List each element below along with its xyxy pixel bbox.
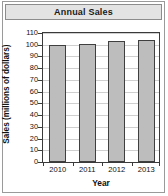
bar-series [43, 33, 159, 162]
y-axis-tick-label: 10 [16, 146, 38, 153]
y-axis-tick-label: 100 [16, 41, 38, 48]
chart-figure: Annual Sales Sales (millions of dollars)… [0, 0, 168, 196]
y-axis-tick-label: 30 [16, 123, 38, 130]
y-axis-tick-label: 50 [16, 99, 38, 106]
y-axis-tick-label: 20 [16, 135, 38, 142]
y-axis-tick-label: 70 [16, 76, 38, 83]
y-axis-tick-label: 110 [16, 29, 38, 36]
x-axis-tick [159, 162, 160, 166]
chart-title: Annual Sales [54, 8, 113, 17]
y-axis-tick-label-container: 100 [14, 41, 38, 49]
chart-title-band: Annual Sales [5, 4, 162, 20]
y-axis-tick-label-container: 70 [14, 76, 38, 84]
y-axis-title: Sales (millions of dollars) [4, 44, 12, 143]
bar [108, 41, 125, 162]
y-axis-tick-label: 40 [16, 111, 38, 118]
plot-area [42, 32, 160, 163]
y-axis-tick-label-container: 80 [14, 64, 38, 72]
bar [138, 40, 155, 162]
bar [79, 44, 96, 162]
x-axis-tick-label: 2012 [102, 166, 132, 174]
y-axis-tick-label-container: 20 [14, 135, 38, 143]
y-axis-tick-label-container: 110 [14, 29, 38, 37]
y-axis-tick-label-container: 30 [14, 123, 38, 131]
y-axis-tick-label-container: 40 [14, 111, 38, 119]
y-axis-tick-label-container: 0 [14, 158, 38, 166]
y-axis-tick-label: 0 [16, 158, 38, 165]
y-axis-tick-label: 80 [16, 64, 38, 71]
gridline [43, 162, 159, 163]
y-axis-tick-label: 60 [16, 88, 38, 95]
x-axis-tick-label: 2010 [43, 166, 73, 174]
bar [49, 45, 66, 162]
x-axis-tick-label: 2013 [132, 166, 162, 174]
y-axis-tick-label-container: 60 [14, 88, 38, 96]
x-axis-tick-label: 2011 [73, 166, 103, 174]
y-axis-tick-label-container: 50 [14, 99, 38, 107]
y-axis-tick-label: 90 [16, 52, 38, 59]
y-axis-tick-label-container: 10 [14, 146, 38, 154]
y-axis-tick-label-container: 90 [14, 52, 38, 60]
x-axis-title: Year [42, 179, 160, 187]
